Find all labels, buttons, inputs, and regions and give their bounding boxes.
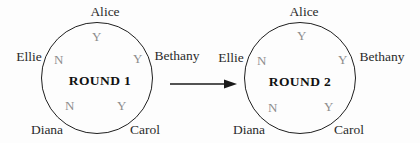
rounds-diagram: ROUND 1 Alice Bethany Carol Diana Ellie … xyxy=(0,0,420,143)
round1-vote-carol: Y xyxy=(117,99,127,112)
round1-vote-diana: N xyxy=(65,99,75,112)
round2-vote-diana: N xyxy=(268,101,278,114)
round1-participant-carol: Carol xyxy=(130,123,160,137)
round1-vote-bethany: Y xyxy=(133,52,143,65)
round2-participant-ellie: Ellie xyxy=(218,51,244,65)
round2-title: ROUND 2 xyxy=(269,75,331,89)
round1-title: ROUND 1 xyxy=(69,74,131,88)
round2-participant-carol: Carol xyxy=(334,123,364,137)
round2-vote-bethany: Y xyxy=(338,53,348,66)
round2-vote-alice: Y xyxy=(297,29,307,42)
round2-vote-ellie: N xyxy=(257,54,267,67)
round1-participant-ellie: Ellie xyxy=(16,50,42,64)
round1-vote-alice: Y xyxy=(92,30,102,43)
round1-participant-alice: Alice xyxy=(90,5,119,19)
round2-participant-alice: Alice xyxy=(289,5,318,19)
round2-participant-diana: Diana xyxy=(233,123,265,137)
round1-participant-bethany: Bethany xyxy=(155,49,200,63)
round2-participant-bethany: Bethany xyxy=(360,50,405,64)
round1-participant-diana: Diana xyxy=(31,123,63,137)
round1-vote-ellie: N xyxy=(54,53,64,66)
round2-vote-carol: Y xyxy=(324,100,334,113)
arrow-icon xyxy=(168,77,240,91)
